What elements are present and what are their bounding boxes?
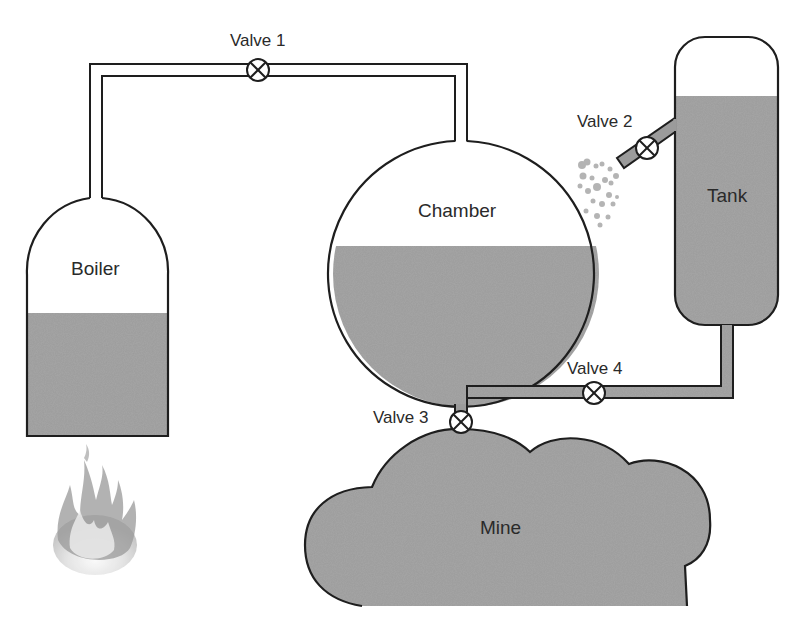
valve-1[interactable] [247,59,269,81]
valve-2[interactable] [636,137,658,159]
boiler-label: Boiler [71,258,120,280]
chamber [328,113,599,408]
gas-bubbles-icon [578,159,620,228]
valve-4-label: Valve 4 [567,359,622,379]
chamber-label: Chamber [418,200,496,222]
valve-3-label: Valve 3 [373,408,428,428]
steam-pipe [90,64,467,198]
valve-2-label: Valve 2 [577,112,632,132]
steam-system-diagram [0,0,805,635]
valve-1-label: Valve 1 [230,31,285,51]
tank-label: Tank [707,185,747,207]
tank [675,37,778,325]
boiler [27,198,168,436]
fire-icon [53,444,137,575]
mine-label: Mine [480,517,521,539]
valve-4[interactable] [583,382,605,404]
valve-3[interactable] [450,411,472,433]
